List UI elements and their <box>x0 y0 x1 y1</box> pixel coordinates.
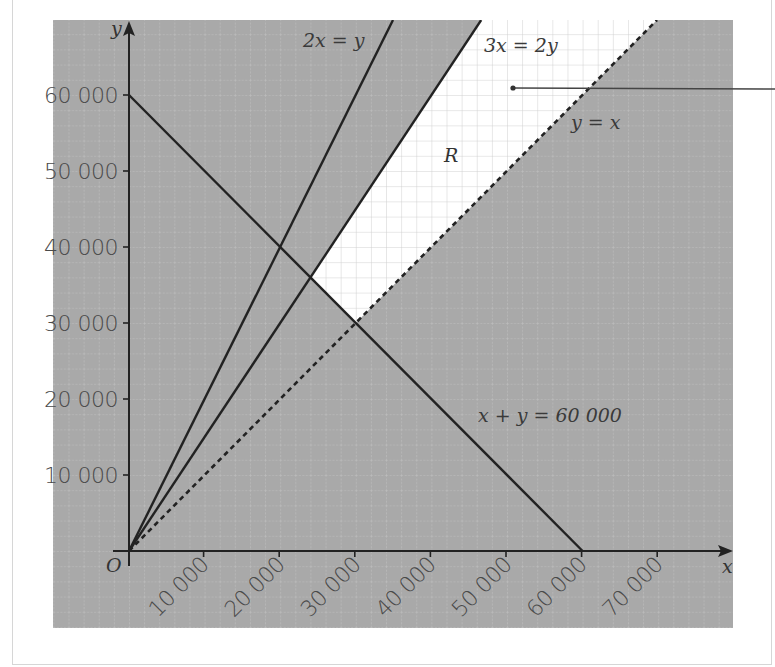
y-tick-40000: 40 000 <box>44 235 118 260</box>
y-tick-50000: 50 000 <box>44 159 118 184</box>
label-y-eq-x: y = x <box>570 111 621 133</box>
y-tick-60000: 60 000 <box>44 83 118 108</box>
linear-programming-graph: 60 000 50 000 40 000 30 000 20 000 10 00… <box>0 0 775 667</box>
shaded-area <box>53 20 733 628</box>
label-3x-eq-2y: 3x = 2y <box>484 34 558 56</box>
x-axis-label: x <box>722 555 733 577</box>
region-r-label: R <box>443 144 458 166</box>
label-x-plus-y-eq-60000: x + y = 60 000 <box>478 404 622 426</box>
y-tick-30000: 30 000 <box>44 311 118 336</box>
y-tick-10000: 10 000 <box>44 463 118 488</box>
label-2x-eq-y: 2x = y <box>302 29 365 51</box>
origin-label: O <box>106 554 122 576</box>
y-tick-20000: 20 000 <box>44 387 118 412</box>
y-axis-label: y <box>110 17 122 39</box>
